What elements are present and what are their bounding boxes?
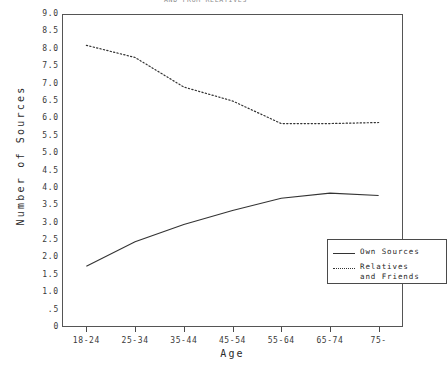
y-axis-tick-label: 9.0 [17,10,59,18]
y-axis-tick-label: 2.0 [17,253,59,261]
chart-legend: Own Sources Relatives and Friends [327,239,447,284]
legend-label-relatives-and-friends: Relatives and Friends [360,262,420,282]
plot-area: Own Sources Relatives and Friends [62,14,403,327]
y-axis-tick-label: 5.0 [17,149,59,157]
y-axis-tick-label: 6.5 [17,97,59,105]
legend-dotted-line-icon [333,268,355,269]
y-axis-tick-label: .5 [17,306,59,314]
x-axis-tick-label: 75- [349,336,409,345]
y-axis-tick-label: 2.5 [17,236,59,244]
series-line-relatives-and-friends [86,45,378,123]
y-axis-tick-label: 1.0 [17,288,59,296]
y-axis-tick-label: 5.5 [17,132,59,140]
x-axis-tick-mark [281,327,282,332]
y-axis-tick-label: 8.0 [17,45,59,53]
x-axis-tick-mark [330,327,331,332]
legend-solid-line-icon [333,253,355,254]
y-axis-tick-label: 8.5 [17,27,59,35]
y-axis-tick-label: 0 [17,323,59,331]
x-axis-tick-mark [233,327,234,332]
y-axis-tick-label: 7.5 [17,62,59,70]
legend-label-own-sources: Own Sources [360,247,420,257]
x-axis-tick-mark [379,327,380,332]
x-axis-tick-mark [184,327,185,332]
x-axis-tick-mark [135,327,136,332]
y-axis-tick-label: 3.0 [17,219,59,227]
x-axis-title: Age [62,348,403,359]
y-axis-tick-label: 7.0 [17,80,59,88]
y-axis-tick-label: 1.5 [17,271,59,279]
y-axis-tick-label: 4.5 [17,167,59,175]
y-axis-tick-label: 4.0 [17,184,59,192]
y-axis-tick-label: 6.0 [17,114,59,122]
x-axis-tick-mark [86,327,87,332]
chart-title: AND FROM RELATIVES [0,0,411,4]
y-axis-tick-label: 3.5 [17,201,59,209]
